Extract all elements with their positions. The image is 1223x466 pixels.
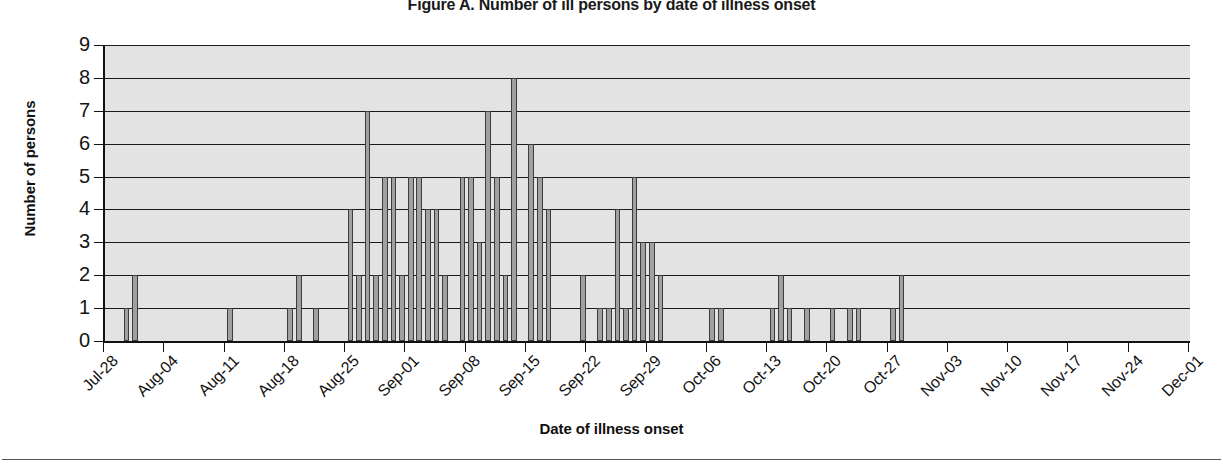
gridline-5 xyxy=(105,177,1190,178)
bar xyxy=(899,275,905,341)
bar xyxy=(485,111,491,341)
bar xyxy=(528,144,534,341)
y-tick-mark xyxy=(94,242,103,243)
bar xyxy=(348,209,354,341)
page-divider xyxy=(2,459,1221,460)
x-axis-line xyxy=(103,341,1190,343)
y-tick-label: 4 xyxy=(46,197,90,220)
chart-title: Figure A. Number of ill persons by date … xyxy=(0,0,1223,16)
gridline-9 xyxy=(105,45,1190,46)
gridline-4 xyxy=(105,209,1190,210)
bar xyxy=(503,275,509,341)
bar xyxy=(132,275,138,341)
y-tick-label: 0 xyxy=(46,329,90,352)
x-tick-mark xyxy=(404,341,405,352)
x-tick-mark xyxy=(1188,341,1189,352)
y-tick-mark xyxy=(94,45,103,46)
x-tick-mark xyxy=(826,341,827,352)
bar xyxy=(442,275,448,341)
bar xyxy=(227,308,233,341)
y-tick-mark xyxy=(94,111,103,112)
bar xyxy=(408,177,414,341)
y-tick-label: 2 xyxy=(46,263,90,286)
x-tick-mark xyxy=(706,341,707,352)
bar xyxy=(434,209,440,341)
y-tick-mark xyxy=(94,308,103,309)
y-tick-label: 5 xyxy=(46,165,90,188)
x-tick-mark xyxy=(1007,341,1008,352)
x-tick-mark xyxy=(1067,341,1068,352)
bar xyxy=(847,308,853,341)
bar xyxy=(425,209,431,341)
bar xyxy=(468,177,474,341)
y-tick-label: 1 xyxy=(46,296,90,319)
bar xyxy=(615,209,621,341)
x-axis-title: Date of illness onset xyxy=(0,420,1223,437)
bar xyxy=(856,308,862,341)
y-tick-label: 6 xyxy=(46,132,90,155)
bar xyxy=(391,177,397,341)
bar xyxy=(382,177,388,341)
bar xyxy=(606,308,612,341)
y-tick-label: 9 xyxy=(46,33,90,56)
x-tick-mark xyxy=(465,341,466,352)
y-tick-mark xyxy=(94,144,103,145)
bar xyxy=(804,308,810,341)
bar xyxy=(787,308,793,341)
bar xyxy=(356,275,362,341)
y-tick-label: 8 xyxy=(46,66,90,89)
bar xyxy=(546,209,552,341)
gridline-8 xyxy=(105,78,1190,79)
bar xyxy=(778,275,784,341)
bar xyxy=(416,177,422,341)
x-tick-mark xyxy=(585,341,586,352)
y-tick-label: 3 xyxy=(46,230,90,253)
plot-inner xyxy=(105,45,1190,341)
bar xyxy=(649,242,655,341)
y-tick-mark xyxy=(94,209,103,210)
bar xyxy=(709,308,715,341)
bar xyxy=(658,275,664,341)
x-tick-mark xyxy=(646,341,647,352)
x-tick-mark xyxy=(103,341,104,352)
bar xyxy=(511,78,517,341)
bar xyxy=(718,308,724,341)
bar xyxy=(365,111,371,341)
bar xyxy=(623,308,629,341)
y-tick-label: 7 xyxy=(46,99,90,122)
x-tick-mark xyxy=(766,341,767,352)
y-tick-mark xyxy=(94,275,103,276)
bar xyxy=(830,308,836,341)
bar xyxy=(597,308,603,341)
x-tick-mark xyxy=(284,341,285,352)
y-tick-mark xyxy=(94,177,103,178)
plot-area xyxy=(103,45,1190,341)
bar xyxy=(580,275,586,341)
bar xyxy=(460,177,466,341)
bar xyxy=(399,275,405,341)
gridline-1 xyxy=(105,308,1190,309)
x-tick-mark xyxy=(947,341,948,352)
bar xyxy=(640,242,646,341)
bar xyxy=(632,177,638,341)
bar xyxy=(296,275,302,341)
y-axis-title: Number of persons xyxy=(21,54,38,284)
bar xyxy=(287,308,293,341)
bar xyxy=(890,308,896,341)
bar xyxy=(494,177,500,341)
gridline-2 xyxy=(105,275,1190,276)
y-tick-mark xyxy=(94,341,103,342)
bar xyxy=(770,308,776,341)
gridline-7 xyxy=(105,111,1190,112)
bar xyxy=(124,308,130,341)
gridline-3 xyxy=(105,242,1190,243)
x-tick-mark xyxy=(224,341,225,352)
x-tick-mark xyxy=(344,341,345,352)
x-tick-mark xyxy=(163,341,164,352)
bar xyxy=(477,242,483,341)
x-tick-mark xyxy=(1128,341,1129,352)
x-tick-mark xyxy=(525,341,526,352)
x-tick-mark xyxy=(887,341,888,352)
epi-curve-figure: Figure A. Number of ill persons by date … xyxy=(0,0,1223,466)
bar xyxy=(537,177,543,341)
